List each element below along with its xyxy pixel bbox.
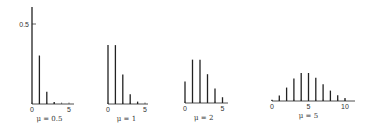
x-tick-label: 0 [183, 105, 187, 112]
x-tick-label: 5 [143, 106, 147, 113]
panel-caption: μ = 2 [194, 114, 213, 122]
x-tick-label: 5 [221, 105, 225, 112]
panel-mu-1: 0.505μ = 0.5 [19, 7, 74, 123]
x-tick-label: 10 [341, 103, 349, 110]
x-tick-label: 0 [106, 106, 110, 113]
x-tick-label: 0 [270, 103, 274, 110]
x-tick-label: 0 [30, 106, 34, 113]
panel-caption: μ = 0.5 [37, 115, 63, 123]
x-tick-label: 5 [67, 106, 71, 113]
panel-caption: μ = 5 [299, 112, 318, 120]
y-tick-label: 0.5 [19, 21, 29, 28]
x-tick-label: 5 [307, 103, 311, 110]
poisson-distribution-figure: 0.505μ = 0.505μ = 105μ = 20510μ = 5 [0, 0, 375, 131]
panel-mu-3: 05μ = 2 [183, 60, 228, 122]
panel-caption: μ = 1 [117, 115, 136, 123]
panel-mu-2: 05μ = 1 [106, 45, 148, 123]
panel-mu-4: 0510μ = 5 [270, 73, 355, 120]
